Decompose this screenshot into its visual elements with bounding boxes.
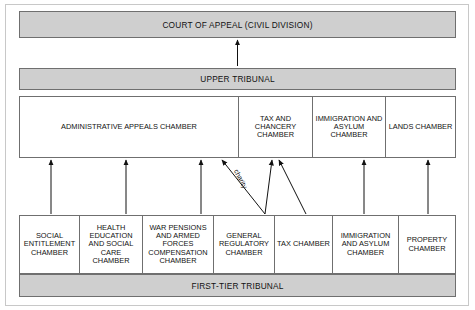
ft-chamber-immigration-and-asylum: IMMIGRATION AND ASYLUM CHAMBER	[332, 215, 399, 274]
ft-chamber-tax: TAX CHAMBER	[274, 215, 333, 274]
ft-chamber-property: PROPERTY CHAMBER	[398, 215, 456, 274]
ft-chamber-label: GENERAL REGULATORY CHAMBER	[214, 232, 274, 257]
ut-chamber-label: LANDS CHAMBER	[387, 123, 455, 131]
court-of-appeal-label: COURT OF APPEAL (CIVIL DIVISION)	[160, 20, 314, 30]
ft-chamber-label: WAR PENSIONS AND ARMED FORCES COMPENSATI…	[143, 224, 213, 265]
ft-chamber-label: SOCIAL ENTITLEMENT CHAMBER	[20, 232, 79, 257]
ft-chamber-health-education-social-care: HEALTH EDUCATION AND SOCIAL CARE CHAMBER	[79, 215, 143, 274]
ut-chamber-label: ADMINISTRATIVE APPEALS CHAMBER	[59, 123, 199, 131]
ft-chamber-social-entitlement: SOCIAL ENTITLEMENT CHAMBER	[19, 215, 80, 274]
ut-chamber-label: IMMIGRATION AND ASYLUM CHAMBER	[313, 115, 385, 140]
ft-chamber-label: HEALTH EDUCATION AND SOCIAL CARE CHAMBER	[80, 224, 142, 265]
ut-chamber-lands: LANDS CHAMBER	[385, 96, 456, 158]
ut-chamber-label: TAX AND CHANCERY CHAMBER	[239, 115, 312, 140]
ut-chamber-tax-and-chancery: TAX AND CHANCERY CHAMBER	[238, 96, 313, 158]
ut-chamber-immigration-and-asylum: IMMIGRATION AND ASYLUM CHAMBER	[312, 96, 386, 158]
ft-chamber-label: PROPERTY CHAMBER	[399, 236, 455, 253]
ut-chamber-administrative-appeals: ADMINISTRATIVE APPEALS CHAMBER	[19, 96, 239, 158]
first-tier-tribunal-label: FIRST-TIER TRIBUNAL	[189, 281, 285, 291]
ft-chamber-label: IMMIGRATION AND ASYLUM CHAMBER	[333, 232, 398, 257]
upper-tribunal-label: UPPER TRIBUNAL	[198, 74, 277, 84]
first-tier-tribunal-band: FIRST-TIER TRIBUNAL	[19, 274, 456, 297]
ft-chamber-label: TAX CHAMBER	[275, 240, 332, 248]
tribunal-structure-diagram: charity COURT OF APPEAL (CIVIL DIVISION)…	[0, 0, 475, 310]
ft-chamber-war-pensions-armed-forces-compensation: WAR PENSIONS AND ARMED FORCES COMPENSATI…	[142, 215, 214, 274]
upper-tribunal-band: UPPER TRIBUNAL	[19, 68, 456, 90]
ft-chamber-general-regulatory: GENERAL REGULATORY CHAMBER	[213, 215, 275, 274]
court-of-appeal-box: COURT OF APPEAL (CIVIL DIVISION)	[19, 11, 456, 38]
